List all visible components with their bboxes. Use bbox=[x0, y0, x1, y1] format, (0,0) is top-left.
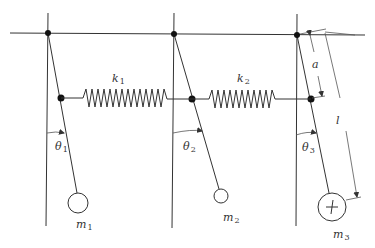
theta1-arc bbox=[47, 132, 64, 133]
theta1-label: θ1 bbox=[55, 140, 68, 154]
dimension-l bbox=[325, 32, 361, 200]
mass3-label: m3 bbox=[333, 228, 350, 242]
theta2-label: θ2 bbox=[183, 140, 196, 154]
pendulum-rod-1 bbox=[48, 33, 77, 193]
mass-1 bbox=[68, 193, 88, 213]
ceiling-line bbox=[10, 33, 365, 35]
dimension-a-label: a bbox=[312, 58, 319, 71]
pivot-3 bbox=[294, 32, 300, 38]
mass-2 bbox=[214, 189, 228, 203]
pivot-1 bbox=[45, 30, 51, 36]
vertical-reference-2 bbox=[172, 13, 174, 228]
theta3-label: θ3 bbox=[302, 141, 315, 155]
theta3-arc bbox=[296, 132, 316, 135]
vertical-reference-3 bbox=[296, 14, 297, 226]
pendulum-rod-2 bbox=[174, 34, 219, 189]
theta2-arc bbox=[173, 130, 202, 133]
spring-k1-label: k1 bbox=[112, 72, 125, 86]
spring-k2 bbox=[192, 90, 311, 108]
pivot-2 bbox=[171, 31, 177, 37]
coupled-pendulums-diagram: k1 k2 θ1 θ2 θ3 m1 m2 m3 a l bbox=[0, 0, 375, 248]
vertical-reference-1 bbox=[46, 13, 48, 226]
mass1-label: m1 bbox=[76, 218, 93, 232]
dimension-l-label: l bbox=[336, 114, 340, 127]
spring-k2-label: k2 bbox=[237, 72, 250, 86]
spring-k1 bbox=[61, 89, 192, 107]
mass2-label: m2 bbox=[223, 211, 240, 225]
